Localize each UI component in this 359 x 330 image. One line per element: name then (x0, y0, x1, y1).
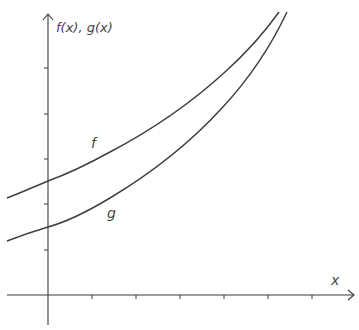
curve-g-label: g (107, 205, 116, 221)
curve-f-label: f (91, 135, 98, 151)
x-ticks (92, 295, 312, 299)
curve-g (7, 12, 287, 241)
x-axis-label: x (330, 272, 340, 288)
y-axis-label: f(x), g(x) (56, 20, 113, 35)
function-graph: f(x), g(x) x f g (0, 0, 359, 330)
y-ticks (44, 68, 48, 250)
